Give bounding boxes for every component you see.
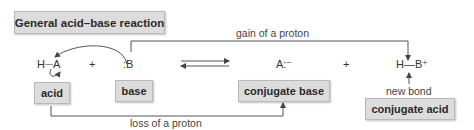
gain-proton-label: gain of a proton: [236, 27, 309, 39]
a-atom: A: [53, 58, 60, 70]
base-label: base: [121, 85, 146, 97]
h-a-bond: —: [45, 59, 53, 68]
product-conjugate-acid-formula: H—B⁺: [396, 58, 428, 71]
title-label: General acid–base reaction: [15, 17, 165, 29]
base-box: base: [115, 80, 153, 102]
new-bond-label: new bond: [386, 85, 432, 97]
product-conjugate-base-formula: A:⁻: [276, 58, 292, 71]
acid-box: acid: [34, 82, 70, 104]
conjugate-acid-label: conjugate acid: [371, 103, 448, 115]
conjugate-base-box: conjugate base: [238, 80, 330, 102]
gain-proton-line: [131, 41, 408, 60]
conjugate-base-label: conjugate base: [244, 85, 324, 97]
plus-sign-2: +: [343, 58, 349, 70]
acid-label: acid: [41, 87, 63, 99]
loss-proton-line: [51, 103, 283, 116]
hydrogen-atom: H: [37, 58, 45, 70]
curved-arrow-bond-to-a: [50, 69, 60, 76]
plus-sign-1: +: [89, 58, 95, 70]
reactant-acid-formula: H—A: [37, 58, 60, 70]
conjugate-acid-box: conjugate acid: [365, 98, 455, 120]
loss-proton-label: loss of a proton: [130, 117, 202, 129]
reactant-base-formula: :B: [123, 58, 133, 70]
title-box: General acid–base reaction: [14, 11, 165, 34]
